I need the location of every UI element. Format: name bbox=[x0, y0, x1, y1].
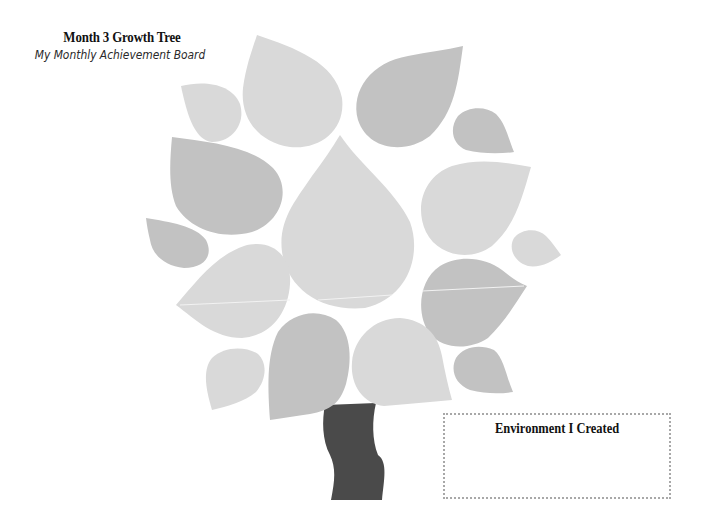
environment-box[interactable]: Environment I Created bbox=[443, 413, 671, 499]
leaf[interactable] bbox=[268, 313, 349, 420]
leaf[interactable] bbox=[453, 108, 514, 153]
leaf[interactable] bbox=[181, 83, 241, 142]
leaf[interactable] bbox=[206, 348, 265, 410]
leaf[interactable] bbox=[356, 46, 463, 147]
leaf[interactable] bbox=[421, 259, 527, 347]
tree-trunk bbox=[323, 403, 384, 500]
environment-box-title: Environment I Created bbox=[461, 420, 654, 437]
leaf[interactable] bbox=[512, 230, 561, 266]
leaf[interactable] bbox=[454, 347, 513, 394]
leaf[interactable] bbox=[170, 137, 282, 235]
leaf[interactable] bbox=[281, 135, 414, 308]
leaf[interactable] bbox=[243, 35, 343, 147]
